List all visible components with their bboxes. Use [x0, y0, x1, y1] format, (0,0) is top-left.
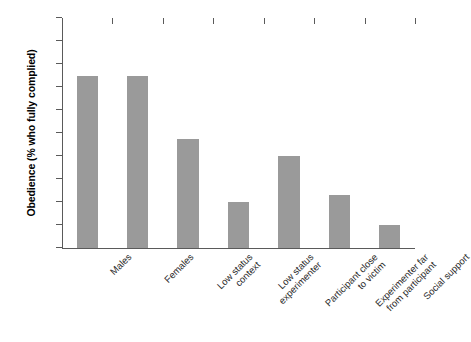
y-axis-tick [56, 109, 62, 110]
x-axis-tick [163, 18, 164, 24]
plot-area: 0102030405060708090100 [62, 18, 415, 248]
x-axis-tick [314, 18, 315, 24]
bar [278, 156, 299, 248]
x-axis-label: Low statuscontext [215, 252, 262, 299]
y-axis-tick [56, 63, 62, 64]
y-axis-tick [56, 247, 62, 248]
x-axis-line [62, 248, 415, 249]
x-axis-label: Experimenter farfrom participant [374, 252, 439, 317]
bar [228, 202, 249, 248]
y-axis-tick [56, 201, 62, 202]
y-axis-tick [56, 155, 62, 156]
y-axis-tick [56, 86, 62, 87]
bar [177, 139, 198, 248]
x-axis-tick [365, 18, 366, 24]
y-axis-tick [56, 40, 62, 41]
x-axis-tick [213, 18, 214, 24]
y-axis-tick [56, 132, 62, 133]
x-axis-tick [415, 18, 416, 24]
y-axis-tick [56, 224, 62, 225]
x-axis-label: Social support [421, 252, 471, 302]
x-axis-tick [112, 18, 113, 24]
x-axis-tick [264, 18, 265, 24]
y-axis-title: Obedience (% who fully complied) [22, 18, 40, 248]
bar [77, 76, 98, 249]
bar [127, 76, 148, 249]
x-axis-label: Females [162, 252, 195, 285]
bar [379, 225, 400, 248]
bar [329, 195, 350, 248]
y-axis-tick [56, 178, 62, 179]
x-axis-label: Males [109, 252, 134, 277]
x-axis-label: Low statusexperimenter [269, 252, 323, 306]
x-axis-label: Participant closeto victim [323, 252, 387, 316]
x-axis-tick [62, 18, 63, 24]
